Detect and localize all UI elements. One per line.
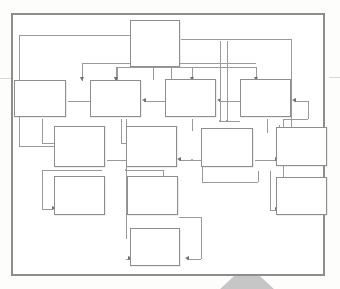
connector-n2-to-n3 [68,101,92,102]
connector-mid-rail-b [227,41,228,121]
connector-n13-right [187,259,201,260]
flow-node-n9[interactable] [276,127,327,166]
junction-dot-c [191,159,193,161]
connector-n6-to-n10 [42,170,43,209]
flow-node-n12[interactable] [276,177,327,215]
flow-node-label [15,81,65,85]
connector-n8-loop-bottom [202,182,258,183]
connector-n7-to-n11-h [126,170,163,171]
flow-node-label [55,127,104,131]
flow-node-label [55,177,104,181]
connector-to-n12-drop [270,171,271,210]
page-edge-mark-right [329,77,340,78]
flow-node-label [277,178,326,182]
flow-node-label [131,21,179,25]
connector-n13-right-v [201,217,202,259]
connector-n2-to-n6 [42,119,43,143]
connector-n8-loop-right [258,171,259,182]
flow-node-label [277,128,326,132]
flow-node-n11[interactable] [127,176,178,215]
connector-n5-to-n8 [267,119,268,133]
arrowhead-n5-loop [292,98,296,102]
junction-dot-b [226,120,228,122]
flow-node-n5[interactable] [240,79,291,117]
connector-n6-to-n7 [107,160,127,161]
flow-node-label [91,81,140,85]
connector-n6-to-n10-h [42,170,102,171]
connector-bus-top [116,67,256,68]
flow-node-n2[interactable] [14,80,66,117]
connector-n5-loop-side [308,101,309,119]
arrowhead-n4-to-n3 [142,98,146,102]
flow-node-n3[interactable] [90,80,141,117]
flow-node-n10[interactable] [54,176,105,215]
flow-node-label [128,177,177,181]
connector-n5-loop-bottom [283,119,308,120]
connector-n1-left-wrap [19,35,130,36]
connector-n13-right-top [179,217,201,218]
connector-left-rail-in [19,146,56,147]
arrowhead-n13-right [185,256,189,260]
connector-mid-rail-a [220,41,221,121]
flow-node-n1[interactable] [130,20,180,67]
flow-node-n8[interactable] [201,128,253,167]
flow-node-n4[interactable] [165,79,216,117]
scanned-page [0,0,340,289]
flow-node-n13[interactable] [130,228,180,266]
flow-node-n6[interactable] [54,126,105,167]
connector-n5-loop-top [294,101,308,102]
connector-n1-down [153,67,154,80]
page-edge-mark-left [0,78,11,79]
flow-node-label [127,127,176,131]
diagram-frame [11,13,325,276]
flow-node-label [241,80,290,84]
flow-node-label [131,229,179,233]
flow-node-label [202,129,252,133]
arrowhead-to-n2b [80,77,84,81]
flow-node-label [166,80,215,84]
junction-dot-a [219,120,221,122]
arrowhead-n8-to-n7 [177,157,181,161]
connector-n4-to-n8 [192,119,193,131]
connector-n1-right-wrap [181,39,291,40]
flow-node-n7[interactable] [126,126,177,167]
connector-mid-rail-join [220,121,240,122]
connector-n8-to-n9 [255,160,277,161]
connector-n3-to-n7 [121,119,122,143]
